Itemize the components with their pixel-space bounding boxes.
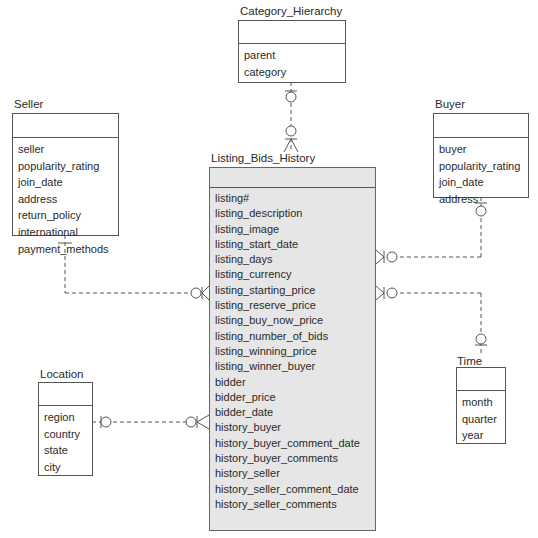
attribute: listing_winner_buyer bbox=[215, 359, 375, 374]
entity-title-location: Location bbox=[40, 368, 83, 381]
entity-header bbox=[457, 368, 505, 391]
entity-header bbox=[13, 114, 118, 138]
attribute: listing_image bbox=[215, 222, 375, 237]
attribute: month bbox=[462, 394, 505, 411]
attribute: history_buyer bbox=[215, 420, 375, 435]
entity-header bbox=[239, 21, 345, 44]
entity-category-hierarchy: parent category bbox=[238, 20, 346, 83]
attribute-list: region country state city bbox=[39, 406, 92, 475]
entity-location: region country state city bbox=[38, 382, 93, 476]
rel-category-listing bbox=[284, 82, 298, 152]
attribute: buyer bbox=[439, 141, 528, 158]
attribute: seller bbox=[18, 141, 118, 158]
entity-header bbox=[39, 383, 92, 406]
attribute: region bbox=[44, 409, 92, 426]
attribute: history_seller_comments bbox=[215, 497, 375, 512]
rel-time-listing bbox=[376, 286, 487, 355]
attribute: listing_starting_price bbox=[215, 283, 375, 298]
attribute-list: parent category bbox=[239, 44, 345, 80]
attribute: listing_days bbox=[215, 252, 375, 267]
entity-title-buyer: Buyer bbox=[435, 98, 465, 111]
attribute: quarter bbox=[462, 411, 505, 428]
attribute-list: listing# listing_description listing_ima… bbox=[210, 188, 375, 512]
attribute: history_seller_comment_date bbox=[215, 482, 375, 497]
attribute: parent bbox=[244, 47, 345, 64]
entity-header bbox=[210, 168, 375, 188]
attribute: address bbox=[439, 191, 528, 208]
attribute-list: buyer popularity_rating join_date addres… bbox=[434, 138, 528, 207]
attribute: country bbox=[44, 426, 92, 443]
attribute: return_policy bbox=[18, 207, 118, 224]
attribute: bidder_date bbox=[215, 405, 375, 420]
attribute: listing# bbox=[215, 191, 375, 206]
attribute: listing_winning_price bbox=[215, 344, 375, 359]
attribute: year bbox=[462, 427, 505, 444]
attribute: bidder_price bbox=[215, 390, 375, 405]
entity-time: month quarter year bbox=[456, 367, 506, 444]
attribute: listing_buy_now_price bbox=[215, 313, 375, 328]
attribute: join_date bbox=[18, 174, 118, 191]
attribute: state bbox=[44, 442, 92, 459]
attribute: listing_currency bbox=[215, 267, 375, 282]
attribute: listing_description bbox=[215, 206, 375, 221]
rel-location-listing bbox=[92, 415, 209, 429]
attribute-list: month quarter year bbox=[457, 391, 505, 444]
entity-title-category-hierarchy: Category_Hierarchy bbox=[240, 5, 342, 18]
entity-listing-bids-history: listing# listing_description listing_ima… bbox=[209, 167, 376, 531]
attribute: popularity_rating bbox=[18, 158, 118, 175]
entity-title-listing-bids-history: Listing_Bids_History bbox=[211, 152, 315, 165]
attribute: payment_methods bbox=[18, 241, 118, 258]
attribute: city bbox=[44, 459, 92, 476]
attribute: join_date bbox=[439, 174, 528, 191]
attribute: history_seller bbox=[215, 466, 375, 481]
attribute: category bbox=[244, 64, 345, 81]
attribute: address bbox=[18, 191, 118, 208]
attribute-list: seller popularity_rating join_date addre… bbox=[13, 138, 118, 257]
attribute: listing_reserve_price bbox=[215, 298, 375, 313]
attribute: popularity_rating bbox=[439, 158, 528, 175]
entity-title-seller: Seller bbox=[14, 98, 43, 111]
attribute: history_buyer_comment_date bbox=[215, 436, 375, 451]
attribute: history_buyer_comments bbox=[215, 451, 375, 466]
entity-seller: seller popularity_rating join_date addre… bbox=[12, 113, 119, 236]
attribute: listing_start_date bbox=[215, 237, 375, 252]
entity-header bbox=[434, 114, 528, 138]
attribute: bidder bbox=[215, 375, 375, 390]
attribute: international bbox=[18, 224, 118, 241]
attribute: listing_number_of_bids bbox=[215, 329, 375, 344]
entity-buyer: buyer popularity_rating join_date addres… bbox=[433, 113, 529, 198]
